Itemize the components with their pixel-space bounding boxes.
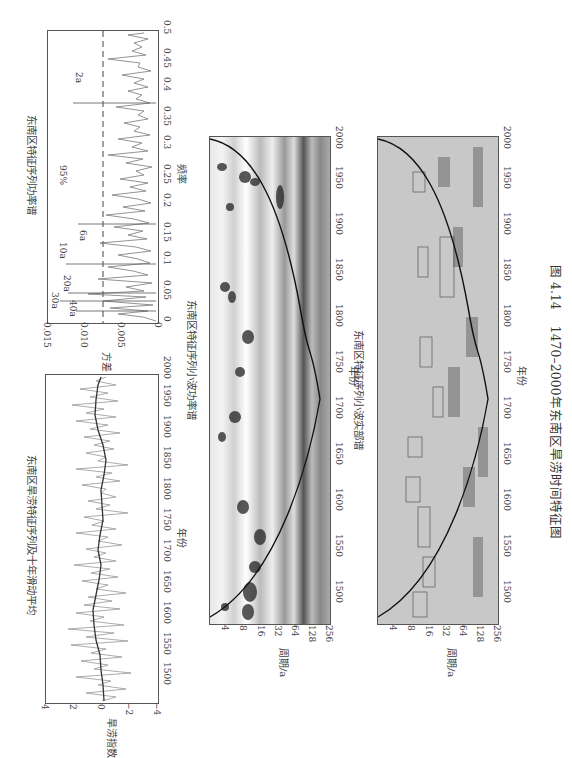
x-tick: 1700 <box>162 539 172 562</box>
x-tick: 1500 <box>502 580 512 603</box>
y-tick: 64 <box>290 625 300 636</box>
y-tick: 256 <box>492 625 502 642</box>
x-tick: 1550 <box>162 632 172 655</box>
y-axis-label: 周期/a <box>445 648 460 677</box>
x-tick: 0.1 <box>162 251 172 265</box>
significance-label: 95% <box>58 165 68 185</box>
x-tick: 1900 <box>162 415 172 438</box>
x-tick: 1550 <box>502 534 512 557</box>
x-tick: 1650 <box>162 570 172 593</box>
x-tick: 1700 <box>334 396 344 419</box>
x-tick: 2000 <box>162 356 172 379</box>
peak-label-40a: 40a <box>68 300 78 317</box>
x-tick: 0.35 <box>162 106 172 126</box>
x-tick: 0.15 <box>162 222 172 242</box>
timeseries-plot-area <box>45 374 159 704</box>
x-tick: 1950 <box>334 166 344 189</box>
x-tick: 1500 <box>334 580 344 603</box>
y-tick: 4 <box>40 704 50 710</box>
x-tick: 1850 <box>162 446 172 469</box>
x-tick: 1950 <box>502 166 512 189</box>
y-tick: 0.015 <box>42 322 52 348</box>
x-tick: 0.3 <box>162 135 172 149</box>
x-tick: 0.05 <box>162 280 172 300</box>
x-tick: 1850 <box>502 258 512 281</box>
y-tick: 2 <box>68 704 78 710</box>
peak-label-2a: 2a <box>74 72 84 83</box>
wavelet-real-plot-area <box>377 136 499 625</box>
x-tick: 1600 <box>502 488 512 511</box>
x-tick: 1900 <box>334 212 344 235</box>
y-tick: 0.010 <box>79 322 89 348</box>
y-tick: −2 <box>124 702 134 715</box>
x-tick: 1850 <box>334 258 344 281</box>
wavelet-power-heatmap <box>210 137 330 624</box>
x-tick: 2000 <box>502 126 512 149</box>
x-tick: 0.25 <box>162 164 172 184</box>
y-tick: 16 <box>256 625 266 636</box>
x-tick: 1600 <box>162 601 172 624</box>
x-axis-label: 年份 <box>515 366 530 386</box>
x-tick: 1950 <box>162 384 172 407</box>
y-axis-label: 旱涝指数 <box>105 718 120 758</box>
y-tick: 64 <box>458 625 468 636</box>
x-tick: 0 <box>162 316 172 322</box>
x-tick: 1500 <box>162 662 172 685</box>
y-tick: 32 <box>273 625 283 636</box>
y-tick: 128 <box>307 625 317 642</box>
chart-title: 东南区特征序列功率谱 <box>25 115 40 215</box>
y-tick: 8 <box>238 625 248 631</box>
wavelet-power-plot-area <box>209 136 331 625</box>
x-tick: 0.5 <box>162 20 172 34</box>
chart-title: 东南区旱涝特征序列及十年滑动平均 <box>25 455 40 615</box>
x-tick: 1800 <box>502 304 512 327</box>
y-tick: 128 <box>475 625 485 642</box>
peak-label-20a: 20a <box>62 275 72 292</box>
x-tick: 1900 <box>502 212 512 235</box>
y-tick: 4 <box>388 625 398 631</box>
x-tick: 0.2 <box>162 193 172 207</box>
y-tick: −4 <box>152 702 162 715</box>
x-tick: 0.4 <box>162 77 172 91</box>
x-tick: 1650 <box>334 442 344 465</box>
y-tick: 8 <box>406 625 416 631</box>
wavelet-real-heatmap <box>378 137 498 624</box>
peak-label-6a: 6a <box>78 230 88 241</box>
x-axis-label: 年份 <box>175 528 190 548</box>
caption-number: 图 4.14 <box>548 265 563 310</box>
chart-title: 东南区特征序列小波功率谱 <box>185 300 200 420</box>
y-axis-label: 方差 <box>100 352 115 372</box>
y-tick: 0.005 <box>116 322 126 348</box>
y-tick: 32 <box>441 625 451 636</box>
x-tick: 2000 <box>334 126 344 149</box>
x-tick: 1600 <box>334 488 344 511</box>
peak-label-10a: 10a <box>58 242 68 259</box>
x-tick: 1800 <box>334 304 344 327</box>
peak-label-30a: 30a <box>50 292 60 309</box>
y-tick: 16 <box>424 625 434 636</box>
y-tick: 0 <box>96 704 106 710</box>
y-tick: 0 <box>153 322 163 328</box>
x-tick: 1650 <box>502 442 512 465</box>
y-axis-label: 周期/a <box>277 648 292 677</box>
x-axis-label: 频率 <box>175 164 190 184</box>
x-tick: 1700 <box>502 396 512 419</box>
figure-caption: 图 4.14 1470–2000年东南区旱涝时间特征图 <box>547 265 566 539</box>
x-tick: 0.45 <box>162 48 172 68</box>
x-tick: 1750 <box>162 508 172 531</box>
chart-title: 东南区特征序列小波实部谱 <box>352 330 367 450</box>
y-tick: 256 <box>324 625 334 642</box>
x-tick: 1750 <box>334 350 344 373</box>
x-tick: 1750 <box>502 350 512 373</box>
caption-text: 1470–2000年东南区旱涝时间特征图 <box>548 326 563 539</box>
y-tick: 4 <box>220 625 230 631</box>
x-tick: 1550 <box>334 534 344 557</box>
timeseries-lines <box>46 375 158 703</box>
x-tick: 1800 <box>162 477 172 500</box>
